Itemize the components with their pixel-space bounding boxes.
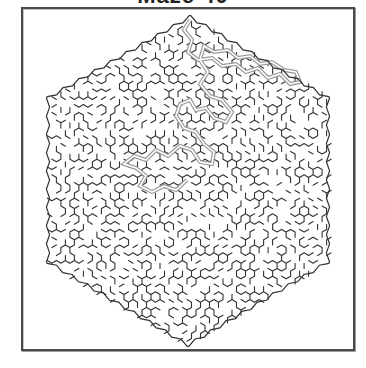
maze-canvas <box>0 0 366 368</box>
maze-outline <box>46 16 329 347</box>
